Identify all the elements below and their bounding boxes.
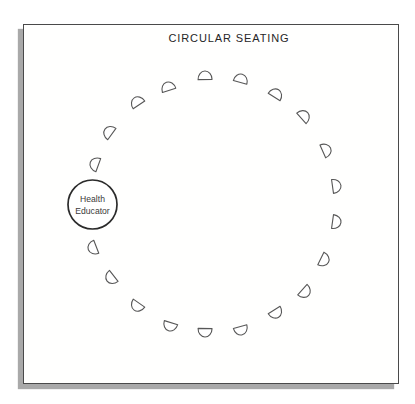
participant-chair-icon — [198, 328, 212, 337]
participant-chair-icon — [298, 284, 314, 300]
participant-chair-icon — [332, 178, 342, 193]
participant-chair-icon — [103, 270, 118, 286]
participant-chair-icon — [128, 299, 144, 314]
seating-diagram: Health Educator — [0, 0, 415, 404]
health-educator-seat: Health Educator — [68, 180, 117, 229]
participant-chair-icon — [233, 325, 249, 337]
chair-ring — [86, 71, 342, 337]
participant-chair-icon — [198, 71, 212, 80]
health-educator-label-line2: Educator — [75, 206, 110, 216]
scanned-page: CIRCULAR SEATING Health Educator — [0, 0, 415, 404]
participant-chair-icon — [86, 240, 99, 256]
participant-chair-icon — [320, 142, 333, 158]
participant-chair-icon — [162, 321, 178, 333]
participant-chair-icon — [318, 252, 332, 268]
participant-chair-icon — [297, 107, 313, 123]
participant-chair-icon — [233, 72, 249, 84]
health-educator-label-line1: Health — [80, 194, 105, 204]
health-educator-circle — [68, 180, 117, 229]
participant-chair-icon — [332, 215, 342, 230]
participant-chair-icon — [160, 80, 176, 92]
participant-chair-icon — [101, 123, 116, 139]
participant-chair-icon — [128, 94, 144, 109]
participant-chair-icon — [88, 156, 101, 172]
participant-chair-icon — [268, 86, 284, 101]
participant-chair-icon — [268, 306, 284, 321]
